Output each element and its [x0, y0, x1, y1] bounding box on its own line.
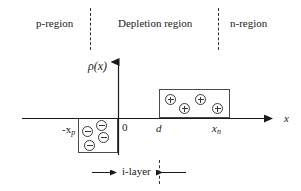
- i-layer-label: i-layer: [122, 166, 151, 177]
- x-axis-label: x: [284, 113, 289, 124]
- minus-xp-prefix: -x: [62, 123, 71, 135]
- minus-xp-subscript: p: [71, 128, 75, 137]
- axes-overlay: [0, 0, 301, 191]
- d-tick-label: d: [156, 123, 162, 134]
- xn-subscript: n: [217, 127, 221, 136]
- xn-tick-label: xn: [212, 123, 221, 136]
- minus-xp-tick-label: -xp: [62, 124, 75, 137]
- i-layer-right-boundary-dashed-line: [159, 160, 160, 184]
- origin-tick-label: 0: [122, 122, 128, 133]
- charge-density-diagram: p-region Depletion region n-region ρ(x): [0, 0, 301, 191]
